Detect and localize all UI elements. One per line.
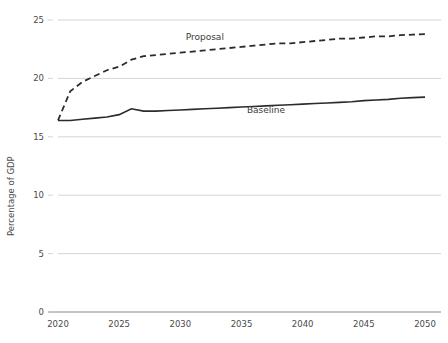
- y-tick-label-25: 25: [33, 15, 44, 25]
- x-tick-label-2020: 2020: [47, 319, 69, 329]
- x-tick-label-2025: 2025: [108, 319, 130, 329]
- y-axis-title: Percentage of GDP: [6, 156, 16, 236]
- x-tick-label-2030: 2030: [170, 319, 192, 329]
- line-chart: 0510152025 2020202520302035204020452050 …: [0, 0, 448, 343]
- chart-container: 0510152025 2020202520302035204020452050 …: [0, 0, 448, 343]
- x-tick-label-2045: 2045: [353, 319, 375, 329]
- y-tick-label-5: 5: [39, 249, 44, 259]
- y-axis-tick-labels: 0510152025: [33, 15, 53, 317]
- x-tick-label-2050: 2050: [414, 319, 436, 329]
- series-label-baseline: Baseline: [247, 105, 286, 115]
- x-tick-label-2035: 2035: [231, 319, 253, 329]
- series-line-baseline: [58, 97, 425, 120]
- x-axis-tick-labels: 2020202520302035204020452050: [47, 319, 436, 329]
- y-tick-label-0: 0: [39, 307, 44, 317]
- y-tick-label-15: 15: [33, 132, 44, 142]
- y-tick-label-20: 20: [33, 73, 44, 83]
- gridlines: [58, 20, 441, 254]
- series-label-proposal: Proposal: [186, 32, 224, 42]
- x-tick-label-2040: 2040: [292, 319, 314, 329]
- y-tick-label-10: 10: [33, 190, 44, 200]
- series-lines: [58, 34, 425, 120]
